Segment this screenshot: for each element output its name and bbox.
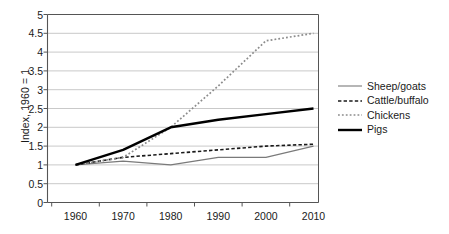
line-chart: Index, 1960 = 1 00.511.522.533.544.55 19… <box>0 0 449 234</box>
legend-label: Chickens <box>367 110 410 121</box>
legend-line-swatch-icon <box>338 95 362 107</box>
legend-item-cattle-buffalo[interactable]: Cattle/buffalo <box>338 94 449 109</box>
x-tick-label: 1980 <box>149 211 193 222</box>
legend-line-swatch-icon <box>338 109 362 121</box>
legend-label: Sheep/goats <box>367 81 426 92</box>
legend-line-swatch-icon <box>338 124 362 136</box>
legend-item-sheep-goats[interactable]: Sheep/goats <box>338 79 449 94</box>
x-tick-label: 2010 <box>292 211 336 222</box>
legend-label: Pigs <box>367 124 387 135</box>
legend-item-chickens[interactable]: Chickens <box>338 108 449 123</box>
x-tick-label: 2000 <box>244 211 288 222</box>
legend-label: Cattle/buffalo <box>367 95 429 106</box>
series-line-sheep-goats <box>76 146 314 165</box>
legend-item-pigs[interactable]: Pigs <box>338 123 449 138</box>
gridlines <box>48 33 319 202</box>
series-line-pigs <box>76 109 314 165</box>
x-tick-label: 1960 <box>54 211 98 222</box>
chart-legend: Sheep/goatsCattle/buffaloChickensPigs <box>338 79 449 137</box>
legend-line-swatch-icon <box>338 80 362 92</box>
x-tick-label: 1970 <box>101 211 145 222</box>
x-tick-label: 1990 <box>196 211 240 222</box>
